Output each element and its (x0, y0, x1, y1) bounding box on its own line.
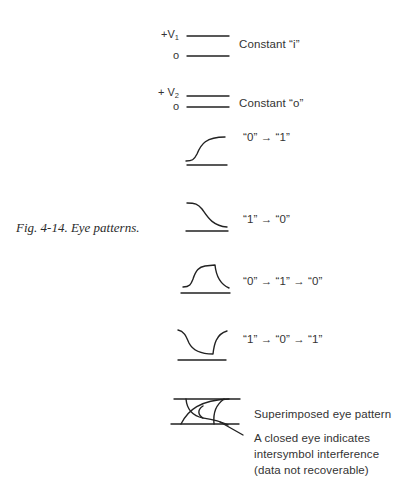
transition-label-falling: “1” → “0” (243, 213, 290, 225)
positive-pulse-icon (181, 265, 230, 293)
eye-pattern-note-line: A closed eye indicates (254, 430, 379, 446)
superimposed-eye-icon (171, 399, 243, 435)
constant-one-low-label: o (173, 49, 179, 61)
figure-caption: Fig. 4-14. Eye patterns. (16, 220, 139, 236)
high-label-text: + V (158, 86, 175, 98)
transition-label-positive-pulse: “0” → “1” → “0” (243, 275, 322, 287)
negative-pulse-icon (178, 330, 227, 360)
falling-edge-icon (186, 203, 228, 231)
eye-pattern-note-line: (data not recoverable) (254, 462, 379, 478)
rising-edge-icon (186, 137, 227, 165)
transition-label-rising: “0” → “1” (243, 131, 290, 143)
constant-one-description: Constant “i” (239, 38, 300, 50)
high-label-text: +V (161, 28, 175, 40)
constant-zero-description: Constant “o” (239, 97, 303, 109)
high-label-subscript: 2 (175, 91, 179, 100)
high-label-subscript: 1 (175, 33, 179, 42)
constant-one-high-label: +V1 (161, 28, 179, 42)
eye-pattern-note: A closed eye indicates intersymbol inter… (254, 430, 379, 478)
eye-pattern-note-line: intersymbol interference (254, 446, 379, 462)
transition-label-negative-pulse: “1” → “0” → “1” (243, 333, 322, 345)
constant-zero-low-label: o (173, 100, 179, 112)
eye-pattern-label: Superimposed eye pattern (254, 408, 391, 420)
constant-zero-high-label: + V2 (158, 86, 179, 100)
